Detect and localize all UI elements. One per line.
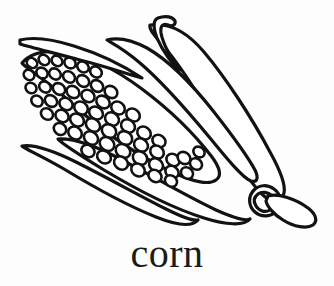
caption-label: corn bbox=[0, 232, 334, 276]
corn-cob-line-art bbox=[0, 0, 334, 240]
illustration-strokes bbox=[20, 17, 316, 227]
illustration-page: corn bbox=[0, 0, 334, 286]
stem bbox=[266, 195, 316, 227]
